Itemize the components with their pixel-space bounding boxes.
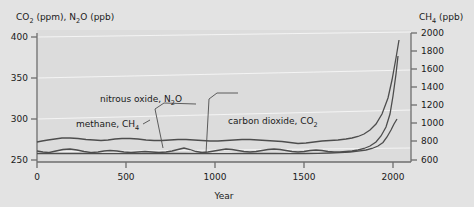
left-tick-label-400: 400 — [11, 32, 28, 42]
left-axis-title-end: O (ppb) — [80, 12, 114, 22]
series-annotation-n2o-tail: O — [175, 94, 182, 104]
chart-canvas: 400 350 300 250 2000 1800 1600 1400 1200… — [0, 0, 474, 216]
right-tick-label-1600: 1600 — [421, 64, 444, 74]
left-tick-label-350: 350 — [11, 73, 28, 83]
series-annotation-co2-sub: 2 — [314, 121, 318, 129]
right-tick-label-1800: 1800 — [421, 46, 444, 56]
series-annotation-ch4-main: methane, CH — [76, 119, 135, 129]
right-tick-label-600: 600 — [421, 155, 438, 165]
right-tick-label-1400: 1400 — [421, 82, 444, 92]
x-tick-label-1500: 1500 — [293, 172, 316, 182]
right-tick-label-2000: 2000 — [421, 28, 444, 38]
right-tick-label-800: 800 — [421, 136, 438, 146]
plot-area — [37, 30, 411, 162]
series-annotation-n2o-main: nitrous oxide, N — [100, 94, 171, 104]
x-axis-title: Year — [213, 191, 233, 201]
right-axis-title-ch4: CH — [419, 12, 432, 22]
right-axis — [411, 33, 417, 162]
right-axis-title-end: (ppb) — [436, 12, 463, 22]
left-axis-title-co2: CO — [16, 12, 29, 22]
x-tick-labels: 0 500 1000 1500 2000 — [34, 172, 405, 182]
right-tick-label-1200: 1200 — [421, 100, 444, 110]
left-axis-title: CO2 (ppm), N2O (ppb) — [16, 12, 114, 25]
x-axis — [37, 162, 411, 168]
left-tick-label-300: 300 — [11, 114, 28, 124]
x-tick-label-1000: 1000 — [204, 172, 227, 182]
x-tick-label-0: 0 — [34, 172, 40, 182]
x-tick-label-500: 500 — [117, 172, 134, 182]
series-annotation-co2-main: carbon dioxide, CO — [228, 116, 314, 126]
left-tick-label-250: 250 — [11, 155, 28, 165]
left-axis-title-mid: (ppm), N — [34, 12, 77, 22]
left-axis — [31, 33, 37, 162]
left-tick-labels: 400 350 300 250 — [11, 32, 28, 165]
series-annotation-ch4-sub: 4 — [135, 124, 139, 132]
climate-greenhouse-gas-chart: 400 350 300 250 2000 1800 1600 1400 1200… — [0, 0, 474, 216]
right-tick-label-1000: 1000 — [421, 118, 444, 128]
right-tick-labels: 2000 1800 1600 1400 1200 1000 800 600 — [421, 28, 444, 165]
x-tick-label-2000: 2000 — [382, 172, 405, 182]
right-axis-title: CH4 (ppb) — [419, 12, 463, 25]
